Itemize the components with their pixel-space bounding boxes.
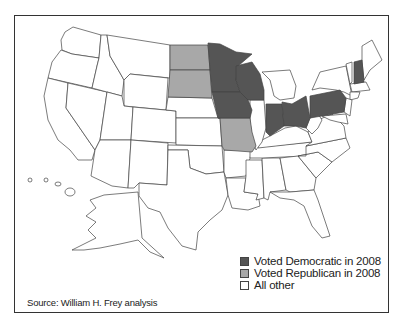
- swatch-democratic: [240, 257, 249, 266]
- swatch-republican: [240, 269, 249, 278]
- swatch-other: [240, 281, 249, 290]
- state-new-mexico: [128, 140, 168, 188]
- state-missouri: [218, 118, 256, 152]
- state-kansas: [176, 118, 222, 146]
- state-massachusetts: [350, 82, 370, 92]
- map-legend: Voted Democratic in 2008 Voted Republica…: [240, 255, 381, 291]
- legend-label-republican: Voted Republican in 2008: [254, 267, 380, 279]
- state-connecticut: [350, 92, 360, 100]
- state-arizona: [91, 140, 131, 188]
- state-south-dakota: [168, 70, 212, 98]
- legend-label-democratic: Voted Democratic in 2008: [254, 255, 381, 267]
- source-note: Source: William H. Frey analysis: [27, 297, 157, 308]
- state-florida: [270, 190, 330, 238]
- state-maine: [362, 40, 382, 80]
- state-north-dakota: [170, 45, 210, 70]
- state-michigan: [262, 70, 296, 100]
- state-new-hampshire: [354, 60, 364, 84]
- legend-item-other: All other: [240, 279, 381, 291]
- state-wyoming: [124, 74, 168, 110]
- legend-item-republican: Voted Republican in 2008: [240, 267, 381, 279]
- state-pennsylvania: [310, 90, 346, 118]
- state-hawaii: [65, 188, 75, 196]
- legend-label-other: All other: [254, 279, 294, 291]
- legend-item-democratic: Voted Democratic in 2008: [240, 255, 381, 267]
- state-colorado: [131, 107, 176, 143]
- state-ohio: [282, 96, 310, 128]
